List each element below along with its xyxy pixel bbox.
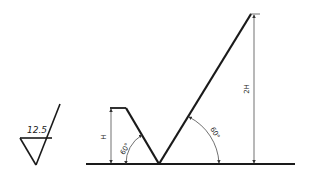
large-angle-dimension: 60°: [189, 117, 221, 163]
small-angle-label: 60°: [119, 142, 132, 157]
height-label-2h: 2H: [243, 84, 251, 94]
height-dimension-h: H: [100, 109, 111, 163]
diagram-canvas: 12.5 H 60° 60° 2H: [0, 0, 309, 180]
small-angle-dimension: 60°: [119, 135, 142, 164]
height-label-h: H: [100, 134, 108, 139]
short-leg-construction: [110, 108, 159, 164]
height-dimension-2h: 2H: [243, 14, 260, 163]
large-angle-label: 60°: [208, 126, 221, 141]
roughness-symbol: 12.5: [20, 104, 60, 165]
long-leg-line: [159, 14, 251, 164]
roughness-value: 12.5: [27, 125, 47, 135]
